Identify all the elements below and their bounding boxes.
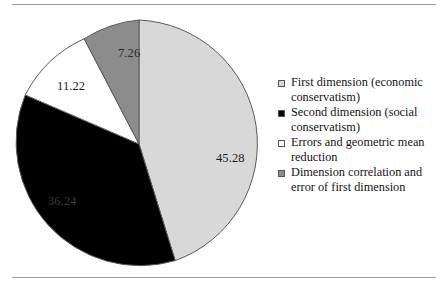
legend-swatch-black-icon [278,110,285,117]
legend-item-second-dimension: Second dimension (social conservatism) [278,105,446,134]
legend-label-errors-reduction: Errors and geometric mean reduction [291,135,446,164]
legend-swatch-white-icon [278,140,285,147]
chart-legend: First dimension (economic conservatism) … [278,75,446,195]
legend-item-first-dimension: First dimension (economic conservatism) [278,75,446,104]
pie-label-second-dimension: 36.24 [48,194,77,209]
pie-label-errors-reduction: 11.22 [57,79,85,94]
legend-swatch-light-gray-icon [278,80,285,87]
legend-swatch-gray-icon [278,170,285,177]
legend-item-errors-reduction: Errors and geometric mean reduction [278,135,446,164]
pie-label-first-dimension: 45.28 [216,151,245,166]
legend-label-second-dimension: Second dimension (social conservatism) [291,105,446,134]
figure-top-rule [12,4,436,5]
pie-label-dimension-correlation: 7.26 [118,46,140,61]
pie-chart-figure: 45.28 36.24 11.22 7.26 First dimension (… [0,0,448,290]
legend-item-dimension-correlation: Dimension correlation and error of first… [278,165,446,194]
pie-chart-plot-area: 45.28 36.24 11.22 7.26 [15,18,265,270]
legend-label-first-dimension: First dimension (economic conservatism) [291,75,446,104]
figure-bottom-rule [12,277,436,278]
legend-label-dimension-correlation: Dimension correlation and error of first… [291,165,446,194]
